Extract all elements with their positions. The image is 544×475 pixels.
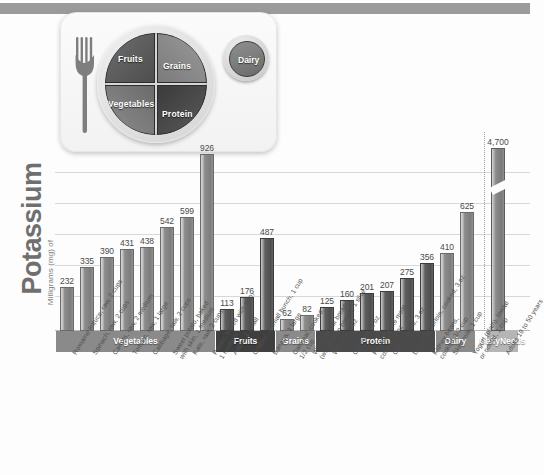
bar-value-label: 275 [400,267,414,277]
bar-value-label: 625 [460,201,474,211]
bar-value-label: 232 [60,276,74,286]
plate-dairy-cup: Dairy [223,35,269,81]
bar-value-label: 113 [220,298,234,308]
bar-21: 625 [460,212,474,331]
plate-circle: Fruits Grains Vegetables Protein [97,25,215,143]
plate-label-fruits: Fruits [118,54,143,64]
y-axis-title: Potassium Milligrams (mg) of [0,118,53,368]
bar-value-label: 926 [200,143,214,153]
y-axis-title-main: Potassium [17,134,48,324]
bar-value-label: 431 [120,238,134,248]
bar-value-label: 4,700 [487,137,508,147]
gridline [55,172,530,173]
plate-sections: Fruits Grains Vegetables Protein [105,33,207,135]
dairy-cup-inner: Dairy [229,41,265,77]
bar-value-label: 542 [160,216,174,226]
bar-value-label: 438 [140,236,154,246]
top-gray-strip-right [282,3,530,14]
bar-value-label: 599 [180,206,194,216]
bar-value-label: 207 [380,280,394,290]
plate-section-grains [157,33,207,83]
fork-icon [74,35,96,133]
bar-1: 232 [60,287,74,331]
bar-value-label: 390 [100,246,114,256]
bar-value-label: 487 [260,227,274,237]
x-axis-labels: Romaine lettuce, raw, 2 cupsSpinach, raw… [0,352,530,475]
plate-label-dairy: Dairy [238,55,259,65]
gridline [55,234,530,235]
y-axis-title-sub: Milligrams (mg) of [46,198,55,348]
plate-label-grains: Grains [163,61,191,71]
bar-value-label: 125 [320,296,334,306]
bar-value-label: 410 [440,242,454,252]
plate-label-protein: Protein [162,109,193,119]
gridline [55,203,530,204]
bar-value-label: 356 [420,252,434,262]
bar-value-label: 82 [302,304,311,314]
axis-break-mark [489,179,510,195]
plate-label-vegetables: Vegetables [108,99,154,109]
myplate-graphic: Fruits Grains Vegetables Protein Dairy [60,12,277,152]
daily-needs-divider [484,132,485,331]
bar-value-label: 335 [80,256,94,266]
plate-section-vegetables [105,85,155,135]
